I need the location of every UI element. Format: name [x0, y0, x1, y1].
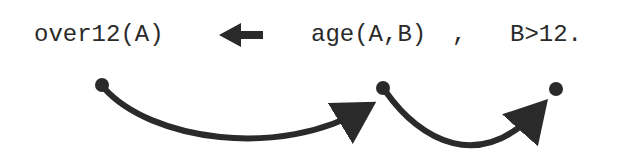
flow-graphics [0, 0, 631, 158]
head-node-dot [95, 78, 109, 92]
edge-head-to-age [104, 88, 366, 138]
age-node-dot [376, 81, 390, 95]
prolog-rule-diagram: over12(A) age(A,B) , B>12. [0, 0, 631, 158]
left-arrow-icon [219, 23, 263, 47]
edge-age-to-compare [386, 92, 540, 145]
compare-node-dot [549, 82, 563, 96]
